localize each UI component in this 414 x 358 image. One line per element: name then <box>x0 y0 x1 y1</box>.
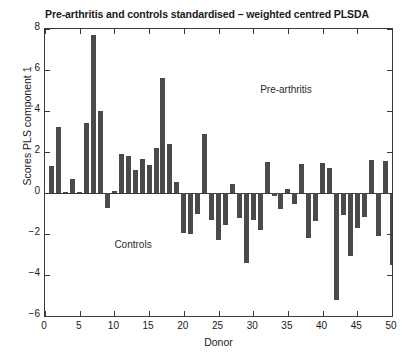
bar <box>313 193 318 221</box>
bar <box>299 164 304 193</box>
bar <box>265 162 270 193</box>
x-tick-mark <box>219 29 220 34</box>
x-tick-mark <box>149 29 150 34</box>
bar <box>98 111 103 193</box>
x-axis-label: Donor <box>44 336 393 348</box>
bar <box>133 170 138 193</box>
bar <box>327 168 332 193</box>
x-tick-mark <box>114 29 115 34</box>
x-tick-label: 25 <box>203 320 233 331</box>
bar <box>320 163 325 193</box>
x-tick-mark <box>114 311 115 316</box>
x-tick-mark <box>80 29 81 34</box>
bar <box>341 193 346 215</box>
bar <box>209 193 214 220</box>
y-tick-mark <box>387 70 392 71</box>
bar <box>306 193 311 238</box>
x-tick-mark <box>288 29 289 34</box>
y-tick-mark <box>387 111 392 112</box>
bar <box>390 193 394 265</box>
x-tick-label: 0 <box>29 320 59 331</box>
bar <box>251 193 256 220</box>
x-tick-mark <box>288 311 289 316</box>
bar <box>244 193 249 263</box>
x-tick-mark <box>253 29 254 34</box>
x-tick-mark <box>45 29 46 34</box>
bar <box>195 193 200 214</box>
bar <box>56 127 61 193</box>
y-tick-label: 6 <box>6 62 40 73</box>
y-tick-mark <box>45 152 50 153</box>
x-tick-label: 50 <box>376 320 406 331</box>
x-tick-mark <box>357 311 358 316</box>
bar <box>126 156 131 193</box>
x-tick-mark <box>80 311 81 316</box>
x-tick-mark <box>184 311 185 316</box>
y-tick-mark <box>387 193 392 194</box>
y-tick-label: 4 <box>6 103 40 114</box>
x-tick-mark <box>357 29 358 34</box>
bar <box>230 184 235 193</box>
bar <box>140 159 145 193</box>
bar <box>348 193 353 256</box>
x-tick-label: 35 <box>272 320 302 331</box>
bar <box>272 193 277 196</box>
y-tick-mark <box>45 193 50 194</box>
bar <box>223 193 228 225</box>
y-tick-mark <box>45 234 50 235</box>
bar <box>292 193 297 204</box>
bar <box>63 192 68 193</box>
x-tick-mark <box>45 311 46 316</box>
bar <box>112 191 117 193</box>
bar <box>154 148 159 193</box>
bar <box>181 193 186 233</box>
y-tick-label: −4 <box>6 267 40 278</box>
x-tick-label: 30 <box>237 320 267 331</box>
x-tick-label: 15 <box>133 320 163 331</box>
bar <box>202 134 207 193</box>
y-tick-mark <box>387 316 392 317</box>
x-tick-mark <box>149 311 150 316</box>
plot-annotation: Controls <box>114 239 151 250</box>
y-tick-mark <box>387 275 392 276</box>
y-tick-mark <box>45 275 50 276</box>
bar <box>278 193 283 209</box>
y-tick-mark <box>45 316 50 317</box>
y-tick-mark <box>387 234 392 235</box>
bar <box>362 193 367 217</box>
y-tick-mark <box>45 70 50 71</box>
bar <box>383 161 388 193</box>
x-tick-mark <box>219 311 220 316</box>
y-tick-mark <box>387 152 392 153</box>
bar <box>369 160 374 193</box>
y-axis-label: Scores PLS component 1 <box>21 26 33 226</box>
bar <box>258 193 263 230</box>
bar <box>376 193 381 236</box>
x-tick-label: 40 <box>307 320 337 331</box>
x-tick-label: 5 <box>64 320 94 331</box>
bar <box>167 144 172 193</box>
y-tick-label: 2 <box>6 144 40 155</box>
x-tick-mark <box>392 311 393 316</box>
y-tick-label: 0 <box>6 185 40 196</box>
bar <box>77 192 82 193</box>
bar <box>84 123 89 193</box>
x-tick-mark <box>323 29 324 34</box>
bar <box>105 193 110 208</box>
bar <box>91 35 96 193</box>
x-tick-label: 10 <box>98 320 128 331</box>
x-tick-label: 45 <box>341 320 371 331</box>
bar <box>174 182 179 193</box>
bar <box>355 193 360 228</box>
chart-figure: Pre-arthritis and controls standardised … <box>0 0 414 358</box>
bar <box>216 193 221 240</box>
bar <box>119 154 124 193</box>
bar <box>147 165 152 193</box>
x-tick-mark <box>184 29 185 34</box>
bar <box>188 193 193 234</box>
bar <box>285 189 290 193</box>
bar <box>160 78 165 193</box>
x-tick-mark <box>253 311 254 316</box>
bar <box>70 179 75 193</box>
y-tick-label: 8 <box>6 21 40 32</box>
